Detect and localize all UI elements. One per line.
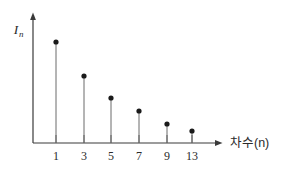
x-axis-title: 차수(n) (230, 136, 269, 150)
y-axis-title: I n (13, 22, 24, 39)
x-tick-label: 7 (136, 149, 142, 163)
y-axis-title-subscript: n (19, 29, 24, 39)
y-axis-arrow-icon (30, 13, 36, 21)
data-point-marker (81, 73, 86, 78)
stem-item (136, 108, 141, 143)
x-tick-label: 9 (164, 149, 170, 163)
x-tick-label: 3 (81, 149, 87, 163)
stem-item (108, 95, 113, 143)
x-tick-label: 13 (186, 149, 198, 163)
stem-item (164, 121, 169, 143)
data-point-marker (164, 121, 169, 126)
harmonic-spectrum-figure: 1 3 5 7 9 13 I n 차수(n) (0, 0, 285, 173)
x-axis-arrow-icon (215, 140, 223, 146)
data-point-marker (189, 128, 194, 133)
stem-item (189, 128, 194, 143)
data-point-marker (136, 108, 141, 113)
stem-series (53, 39, 194, 143)
data-point-marker (53, 39, 58, 44)
x-axis-ticks (56, 135, 192, 143)
x-tick-label: 1 (53, 149, 59, 163)
x-axis-group (33, 140, 223, 146)
data-point-marker (108, 95, 113, 100)
x-tick-labels: 1 3 5 7 9 13 (53, 149, 198, 163)
stem-plot-chart: 1 3 5 7 9 13 I n 차수(n) (0, 0, 285, 173)
stem-item (81, 73, 86, 143)
y-axis-group (30, 13, 36, 144)
stem-item (53, 39, 58, 143)
x-tick-label: 5 (108, 149, 114, 163)
